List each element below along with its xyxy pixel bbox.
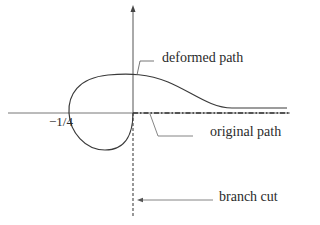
original-path-leader (150, 114, 193, 136)
point-label-minus-quarter: −1/4 (49, 115, 73, 128)
deformed-path-label: deformed path (162, 51, 243, 65)
branch-cut-label: branch cut (219, 190, 278, 204)
branch-cut-arrow-icon (137, 198, 143, 202)
deformed-path-leader (137, 61, 154, 75)
imaginary-axis-arrow-icon (131, 5, 136, 12)
original-path-label: original path (210, 125, 281, 139)
